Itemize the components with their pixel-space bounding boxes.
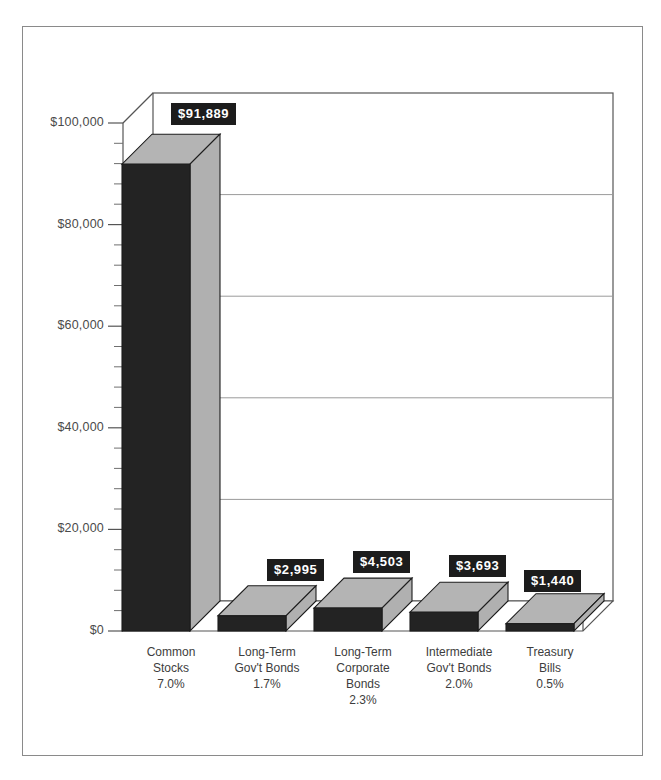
category-line: Treasury [485, 644, 615, 660]
ytick-label-0: $0 [14, 623, 104, 637]
category-rate: 0.5% [485, 676, 615, 692]
value-label-longterm-corp-bonds: $4,503 [353, 551, 410, 573]
category-rate: 2.3% [298, 692, 428, 708]
ytick-label-60000: $60,000 [14, 318, 104, 332]
value-label-treasury-bills: $1,440 [524, 570, 581, 592]
ytick-label-40000: $40,000 [14, 420, 104, 434]
value-label-longterm-govt-bonds: $2,995 [267, 559, 324, 581]
back-wall [153, 93, 613, 601]
value-label-intermediate-govt-bonds: $3,693 [449, 555, 506, 577]
bar-common-stocks [122, 134, 220, 631]
category-line: Bills [485, 660, 615, 676]
value-label-common-stocks: $91,889 [171, 103, 236, 125]
chart-container: $100,000 $80,000 $60,000 $40,000 $20,000… [0, 0, 661, 780]
y-axis-major-ticks [108, 123, 123, 631]
ytick-label-20000: $20,000 [14, 521, 104, 535]
ytick-label-100000: $100,000 [14, 115, 104, 129]
category-label-treasury-bills: Treasury Bills 0.5% [485, 644, 615, 692]
ytick-label-80000: $80,000 [14, 217, 104, 231]
